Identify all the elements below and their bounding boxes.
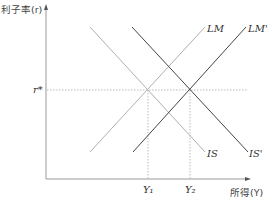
lm-label: LM (206, 23, 225, 34)
y1-label: Y₁ (143, 184, 154, 195)
is-label: IS (206, 148, 218, 159)
y2-label: Y₂ (185, 184, 196, 195)
x-axis-label: 所得(Y) (230, 187, 263, 198)
r-star-label: r* (33, 84, 43, 95)
is-prime-label: IS' (248, 148, 263, 159)
lm-prime-label: LM' (247, 23, 268, 34)
y-axis-label: 利子率(r) (1, 4, 42, 15)
guide-lines (47, 90, 248, 179)
y-axis-arrow-icon (44, 4, 48, 10)
curves (90, 27, 248, 152)
x-axis-arrow-icon (245, 177, 251, 181)
is-lm-diagram: 利子率(r) 所得(Y) r* Y₁ Y₂ LM LM' IS IS' (0, 0, 272, 202)
